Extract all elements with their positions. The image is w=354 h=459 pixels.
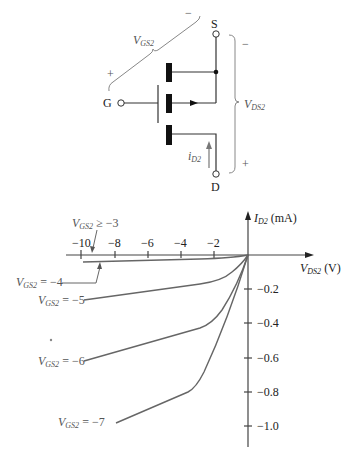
x-tick-label: −4 bbox=[174, 236, 187, 250]
curves bbox=[83, 255, 248, 423]
curve-label-vgs-minus-6: VGS2 = −6 bbox=[38, 354, 85, 369]
y-tick-label: −0.8 bbox=[257, 385, 279, 399]
y-axis-arrow-icon bbox=[245, 211, 251, 220]
source-terminal-label: S bbox=[211, 17, 218, 31]
x-tick-label: −2 bbox=[207, 236, 220, 250]
curve-label-vgs-ge-minus-3: VGS2 ≥ −3 bbox=[72, 216, 118, 231]
channel-bar-bottom bbox=[166, 125, 172, 145]
stray-dot bbox=[50, 339, 52, 341]
curve-label-vgs-minus-5: VGS2 = −5 bbox=[38, 293, 85, 308]
curve-label-vgs-minus-7: VGS2 = −7 bbox=[58, 415, 105, 430]
vds-plus-sign: + bbox=[242, 157, 249, 171]
junction-dot bbox=[214, 70, 219, 75]
x-axis-arrow-icon bbox=[305, 252, 314, 258]
vgs-bracket: − + VGS2 bbox=[107, 6, 200, 91]
arrow-up-icon bbox=[206, 141, 212, 149]
vgs-label: VGS2 bbox=[133, 33, 154, 48]
vds-minus-sign: − bbox=[242, 37, 249, 51]
y-tick-label: −1.0 bbox=[257, 419, 279, 433]
jfet-circuit: − + VGS2 S G D iD2 bbox=[103, 6, 265, 194]
x-tick-label: −6 bbox=[141, 236, 154, 250]
id-label: iD2 bbox=[188, 149, 201, 164]
x-tick-label: −10 bbox=[72, 236, 91, 250]
vgs-plus-sign: + bbox=[107, 67, 114, 81]
channel-bar-top bbox=[166, 63, 172, 82]
y-tick-label: −0.2 bbox=[257, 282, 279, 296]
y-tick-label: −0.6 bbox=[257, 351, 279, 365]
channel-bar-middle bbox=[166, 94, 172, 113]
curve-vgs-minus-4 bbox=[83, 255, 248, 262]
substrate-arrow-icon bbox=[190, 100, 198, 106]
y-tick-label: −0.4 bbox=[257, 316, 279, 330]
gate-terminal bbox=[118, 100, 124, 106]
x-axis-label: VDS2 (V) bbox=[300, 261, 341, 276]
vgs-minus-sign: − bbox=[185, 6, 192, 20]
source-terminal bbox=[213, 31, 219, 37]
jfet-figure: − + VGS2 S G D iD2 bbox=[0, 0, 354, 459]
curve-vgs-minus-7 bbox=[116, 255, 248, 423]
id-current-arrow: iD2 bbox=[188, 141, 212, 168]
iv-characteristic-graph: ID2 (mA) VDS2 (V) −10 −8 −6 −4 −2 −0.2 −… bbox=[16, 211, 341, 447]
curve-vgs-minus-6 bbox=[84, 255, 248, 361]
drain-terminal bbox=[213, 171, 219, 177]
gate-terminal-label: G bbox=[103, 96, 112, 110]
pointer-vgs-ge-minus-3 bbox=[90, 230, 97, 253]
vds-bracket: − + VDS2 bbox=[229, 35, 265, 173]
pointer-vgs-minus-4 bbox=[62, 262, 102, 283]
x-tick-label: −8 bbox=[108, 236, 121, 250]
vds-label: VDS2 bbox=[244, 97, 265, 112]
drain-terminal-label: D bbox=[211, 180, 220, 194]
y-axis-label: ID2 (mA) bbox=[253, 211, 297, 226]
curve-label-vgs-minus-4: VGS2 = −4 bbox=[16, 275, 63, 290]
